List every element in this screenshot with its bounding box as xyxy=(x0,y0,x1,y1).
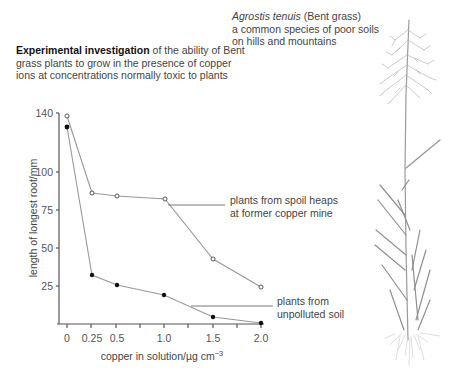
ytick-50: 50 xyxy=(41,242,53,254)
point-open xyxy=(163,197,167,201)
y-axis xyxy=(56,113,59,324)
point-open xyxy=(65,114,69,118)
point-filled xyxy=(259,321,263,325)
point-filled xyxy=(65,125,70,130)
point-open xyxy=(115,194,119,198)
annotation-spoil-line1: plants from spoil heaps xyxy=(230,194,338,206)
point-open xyxy=(259,285,263,289)
ytick-75: 75 xyxy=(41,204,53,216)
xtick-0.25: 0.25 xyxy=(82,332,103,344)
bent-grass-illustration xyxy=(375,20,440,365)
x-axis-label-superscript: −3 xyxy=(215,349,224,358)
xtick-2.0: 2.0 xyxy=(254,332,269,344)
xtick-1.5: 1.5 xyxy=(206,332,221,344)
point-filled xyxy=(211,315,215,319)
x-axis xyxy=(57,324,264,328)
xtick-0.5: 0.5 xyxy=(110,332,125,344)
y-axis-label: length of longest root/mm xyxy=(27,159,39,278)
annotation-spoil-line2: at former copper mine xyxy=(230,207,333,219)
chart-canvas: 140 100 75 50 25 0 0.25 0.5 1.0 1.5 2.0 … xyxy=(0,0,468,371)
ytick-140: 140 xyxy=(35,107,53,119)
point-filled xyxy=(115,283,119,287)
xtick-1.0: 1.0 xyxy=(157,332,172,344)
series-unpolluted xyxy=(65,125,264,326)
annotation-unpolluted-line1: plants from xyxy=(277,295,329,307)
x-axis-label-main: copper in solution/µg cm xyxy=(101,350,215,362)
point-open xyxy=(90,191,94,195)
annotation-unpolluted-line2: unpolluted soil xyxy=(277,308,344,320)
point-open xyxy=(211,257,215,261)
x-axis-label: copper in solution/µg cm−3 xyxy=(101,349,224,362)
point-filled xyxy=(90,273,94,277)
point-filled xyxy=(162,293,166,297)
ytick-25: 25 xyxy=(41,280,53,292)
xtick-0: 0 xyxy=(64,332,70,344)
